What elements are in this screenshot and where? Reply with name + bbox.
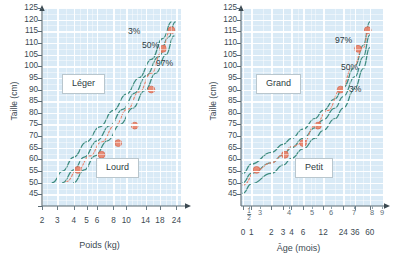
gridline-vertical — [355, 8, 356, 206]
y-tick-mark — [38, 78, 42, 79]
y-tick-mark — [38, 55, 42, 56]
x-axis-title-left: Poids (kg) — [0, 240, 199, 250]
x-tick-label-secondary: 5 — [310, 209, 314, 217]
x-tick-mark-secondary — [331, 206, 332, 209]
gridline-vertical-minor — [153, 8, 154, 206]
y-tick-label: 45 — [12, 190, 38, 198]
gridline-vertical-minor — [243, 8, 244, 206]
y-tick-label: 80 — [12, 109, 38, 117]
x-tick-label: 10 — [122, 216, 131, 225]
y-tick-mark — [237, 55, 241, 56]
x-tick-mark — [283, 206, 284, 210]
x-tick-label: 18 — [155, 216, 164, 225]
x-tick-mark — [323, 206, 324, 210]
y-tick-mark — [237, 90, 241, 91]
x-tick-label: 8 — [111, 216, 116, 225]
x-tick-label: 4 — [71, 216, 76, 225]
gridline-vertical — [146, 8, 147, 206]
percentile-label-50-right: 50% — [341, 62, 358, 72]
x-tick-label-secondary: 7 — [352, 209, 356, 217]
x-tick-mark — [271, 206, 272, 210]
y-tick-mark — [38, 124, 42, 125]
y-axis-tick-labels-left: 1251201151101051009590858075706560555045 — [12, 0, 38, 262]
y-tick-label: 50 — [211, 179, 237, 187]
chart-panel-weight-height: Taille (cm) 1251201151101051009590858075… — [0, 0, 199, 262]
x-tick-label: 6 — [301, 228, 306, 237]
y-tick-label: 115 — [211, 27, 237, 35]
x-tick-mark-secondary — [289, 206, 290, 209]
y-tick-label: 95 — [211, 74, 237, 82]
percentile-label-50-left: 50% — [142, 40, 159, 50]
percentile-label-3-right: 3% — [349, 84, 361, 94]
y-tick-mark — [237, 66, 241, 67]
x-tick-mark — [113, 206, 114, 210]
x-tick-label: 0 — [241, 228, 246, 237]
x-tick-label: 3 — [55, 216, 60, 225]
y-tick-label: 90 — [12, 86, 38, 94]
gridline-vertical-minor — [171, 8, 172, 206]
percentile-label-97-right: 97% — [335, 35, 352, 45]
y-tick-mark — [38, 148, 42, 149]
x-tick-label: 24 — [339, 228, 348, 237]
y-tick-mark — [38, 183, 42, 184]
y-tick-label: 75 — [211, 120, 237, 128]
y-tick-mark — [237, 113, 241, 114]
y-tick-mark — [38, 66, 42, 67]
x-tick-mark — [343, 206, 344, 210]
y-tick-label: 60 — [211, 155, 237, 163]
y-tick-label: 80 — [211, 109, 237, 117]
y-axis-tick-labels-right: 1251201151101051009590858075706560555045 — [211, 0, 237, 262]
gridline-vertical — [160, 8, 161, 206]
y-tick-label: 120 — [12, 16, 38, 24]
gridline-vertical-minor — [92, 8, 93, 206]
gridline-vertical — [87, 8, 88, 206]
y-tick-label: 60 — [12, 155, 38, 163]
x-tick-label-secondary: 6 — [329, 209, 333, 217]
x-tick-label: 12 — [319, 228, 328, 237]
gridline-vertical-minor — [47, 8, 48, 206]
x-tick-mark-secondary — [382, 206, 383, 209]
x-tick-label: 2 — [269, 228, 274, 237]
x-tick-label: 60 — [365, 228, 374, 237]
x-tick-mark — [57, 206, 58, 210]
gridline-vertical — [251, 8, 252, 206]
x-tick-mark-secondary — [312, 206, 313, 209]
y-tick-mark — [237, 183, 241, 184]
x-tick-mark — [176, 206, 177, 210]
y-tick-label: 55 — [211, 167, 237, 175]
y-tick-mark — [38, 113, 42, 114]
x-tick-mark — [160, 206, 161, 210]
callout-grand: Grand — [256, 74, 301, 94]
y-tick-label: 120 — [211, 16, 237, 24]
chart-panel-age-height: Taille (cm) 1251201151101051009590858075… — [199, 0, 398, 262]
y-tick-label: 125 — [12, 4, 38, 12]
y-tick-label: 105 — [12, 51, 38, 59]
y-tick-label: 45 — [211, 190, 237, 198]
y-tick-mark — [237, 171, 241, 172]
x-tick-label: 1 — [249, 228, 254, 237]
y-tick-mark — [38, 159, 42, 160]
growth-chart-figure: Taille (cm) 1251201151101051009590858075… — [0, 0, 398, 262]
gridline-vertical — [57, 8, 58, 206]
x-tick-mark — [355, 206, 356, 210]
y-tick-mark — [237, 124, 241, 125]
x-tick-mark — [126, 206, 127, 210]
y-tick-mark — [38, 8, 42, 9]
y-tick-label: 125 — [211, 4, 237, 12]
gridline-vertical — [283, 8, 284, 206]
y-tick-label: 110 — [211, 39, 237, 47]
x-tick-label: 36 — [350, 228, 359, 237]
x-tick-label: 4 — [289, 228, 294, 237]
gridline-vertical-minor — [141, 8, 142, 206]
callout-lourd: Lourd — [96, 158, 139, 178]
x-tick-label: 14 — [141, 216, 150, 225]
y-tick-label: 65 — [211, 144, 237, 152]
y-tick-label: 90 — [211, 86, 237, 94]
gridline-vertical — [370, 8, 371, 206]
y-tick-mark — [38, 136, 42, 137]
x-tick-mark-secondary — [354, 206, 355, 209]
gridline-vertical — [291, 8, 292, 206]
callout-leger: Léger — [62, 74, 105, 94]
y-tick-label: 65 — [12, 144, 38, 152]
callout-petit: Petit — [295, 158, 333, 178]
